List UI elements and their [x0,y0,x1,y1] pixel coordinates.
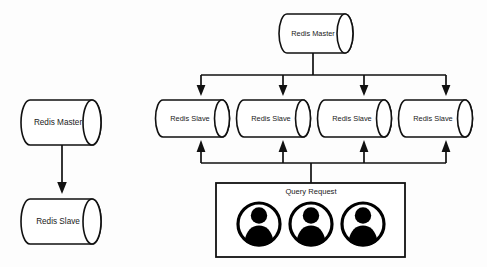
diagram-canvas: Redis Master Redis Slave Redis Master [0,0,487,267]
slave-node-2[interactable]: Redis Slave [237,100,311,137]
left-replication-arrow [57,145,67,194]
left-slave-node[interactable]: Redis Slave [21,199,101,244]
query-bus [197,140,451,183]
slave-3-cylinder-cap [377,100,392,137]
left-master-cylinder-cap [83,100,101,145]
left-slave-cylinder-cap [83,199,101,244]
query-request-box[interactable]: Query Request [216,183,405,257]
slave-2-label: Redis Slave [251,114,290,123]
right-master-cylinder-cap [337,14,353,53]
avatar-head-3 [355,207,371,223]
slave-2-cylinder-cap [296,100,311,137]
right-topology-group: Redis Master Redis Slave [156,14,473,257]
slave-node-3[interactable]: Redis Slave [318,100,392,137]
replication-arrow-head-4 [442,85,451,96]
slave-1-cylinder-cap [215,100,230,137]
user-avatar-icon[interactable] [342,203,384,247]
slave-node-1[interactable]: Redis Slave [156,100,230,137]
replication-arrow-head-1 [197,85,206,96]
user-avatar-icon[interactable] [290,203,332,247]
slave-4-label: Redis Slave [413,114,452,123]
left-master-label: Redis Master [34,118,83,127]
avatar-head-2 [303,207,319,223]
avatar-head-1 [251,207,267,223]
left-topology-group: Redis Master Redis Slave [21,100,101,244]
replication-arrow-head-2 [279,85,288,96]
slave-1-label: Redis Slave [170,114,209,123]
query-arrow-head-4 [442,140,451,152]
query-arrow-head-2 [279,140,288,152]
slave-4-cylinder-cap [458,100,473,137]
query-arrow-head-3 [360,140,369,152]
query-request-title: Query Request [285,187,337,196]
right-master-node[interactable]: Redis Master [279,14,353,53]
slave-3-label: Redis Slave [332,114,371,123]
user-avatar-icon[interactable] [238,203,280,247]
diagram-svg: Redis Master Redis Slave Redis Master [0,0,487,267]
right-master-label: Redis Master [291,29,335,38]
query-arrow-head-1 [197,140,206,152]
replication-arrow-head-3 [360,85,369,96]
left-arrow-head [57,182,67,194]
left-slave-label: Redis Slave [36,217,80,226]
left-master-node[interactable]: Redis Master [21,100,101,145]
replication-bus [197,53,451,96]
slave-node-4[interactable]: Redis Slave [399,100,473,137]
